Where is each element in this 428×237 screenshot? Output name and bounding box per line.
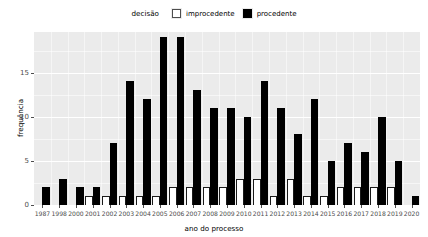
x-tick-label-2004: 2004 [135,210,151,217]
bar-improcedente-2001 [85,196,93,205]
gridline-vertical [51,32,52,205]
x-tick-mark [160,205,161,208]
x-tick-mark [193,205,194,208]
bar-improcedente-2008 [203,187,211,205]
white-square-icon [172,9,181,18]
x-tick-label-2017: 2017 [353,210,369,217]
x-axis-title: ano do processo [0,224,428,233]
bar-procedente-2003 [126,81,134,205]
x-tick-label-2002: 2002 [102,210,118,217]
legend-label-improcedente: improcedente [186,10,235,18]
chart-legend: decisão improcedente procedente [0,8,428,19]
gridline-vertical [403,32,404,205]
x-tick-mark [110,205,111,208]
bar-procedente-2019 [395,161,403,205]
x-tick-label-1987: 1987 [35,210,51,217]
legend-title: decisão [132,9,159,18]
x-tick-mark [261,205,262,208]
y-tick-label: 5 [25,157,29,165]
bar-improcedente-2007 [186,187,194,205]
gridline-major [34,73,420,74]
x-tick-label-2010: 2010 [236,210,252,217]
bar-procedente-2008 [210,108,218,205]
bar-procedente-2013 [294,134,302,205]
bar-improcedente-2019 [387,187,395,205]
gridline-vertical [151,32,152,205]
gridline-vertical [185,32,186,205]
gridline-vertical [370,32,371,205]
gridline-vertical [386,32,387,205]
bar-improcedente-2013 [287,179,295,205]
gridline-vertical [353,32,354,205]
legend-key-procedente [242,8,253,19]
gridline-minor [34,95,420,96]
legend-item-improcedente[interactable]: improcedente [171,8,235,19]
x-tick-label-2019: 2019 [387,210,403,217]
gridline-minor [34,51,420,52]
bar-procedente-2018 [378,117,386,205]
gridline-vertical [135,32,136,205]
bar-improcedente-2005 [152,196,160,205]
bar-procedente-2009 [227,108,235,205]
bar-improcedente-2009 [219,187,227,205]
gridline-vertical [269,32,270,205]
x-tick-label-2011: 2011 [253,210,269,217]
bar-improcedente-2010 [236,179,244,205]
x-tick-mark [344,205,345,208]
x-tick-label-2007: 2007 [186,210,202,217]
bar-procedente-2007 [193,90,201,205]
bar-procedente-2004 [143,99,151,205]
x-tick-label-2008: 2008 [202,210,218,217]
bar-improcedente-2014 [303,196,311,205]
bar-procedente-2016 [344,143,352,205]
y-tick-label: 0 [25,201,29,209]
bar-procedente-2006 [177,37,185,205]
gridline-vertical [101,32,102,205]
black-square-icon [243,9,252,18]
bar-improcedente-2002 [102,196,110,205]
chart-figure: decisão improcedente procedente frequênc… [0,0,428,237]
x-tick-label-2015: 2015 [320,210,336,217]
gridline-vertical [168,32,169,205]
bar-procedente-2002 [110,143,118,205]
gridline-vertical [303,32,304,205]
x-tick-label-2012: 2012 [270,210,286,217]
bar-procedente-2017 [361,152,369,205]
x-tick-mark [395,205,396,208]
bar-procedente-2001 [93,187,101,205]
x-tick-label-2016: 2016 [337,210,353,217]
x-tick-label-2014: 2014 [303,210,319,217]
bar-improcedente-2006 [169,187,177,205]
x-tick-mark [361,205,362,208]
y-tick-label: 15 [20,69,29,77]
x-tick-label-2003: 2003 [119,210,135,217]
bar-procedente-2011 [261,81,269,205]
x-tick-label-2001: 2001 [85,210,101,217]
x-tick-label-2018: 2018 [370,210,386,217]
bar-improcedente-2012 [270,196,278,205]
bar-procedente-2015 [328,161,336,205]
bar-improcedente-2015 [320,196,328,205]
bar-improcedente-2011 [253,179,261,205]
x-tick-mark [143,205,144,208]
x-tick-label-2020: 2020 [404,210,420,217]
x-tick-mark [244,205,245,208]
x-tick-mark [412,205,413,208]
legend-key-improcedente [171,8,182,19]
bar-improcedente-2018 [370,187,378,205]
gridline-vertical [84,32,85,205]
x-tick-mark [277,205,278,208]
bar-improcedente-2016 [337,187,345,205]
x-tick-mark [59,205,60,208]
y-axis: 051015 [0,32,34,205]
gridline-vertical [118,32,119,205]
x-tick-mark [311,205,312,208]
legend-item-procedente[interactable]: procedente [242,8,297,19]
x-tick-label-1998: 1998 [51,210,67,217]
plot-panel [34,32,420,205]
gridline-vertical [336,32,337,205]
x-tick-mark [294,205,295,208]
bar-procedente-2010 [244,117,252,205]
x-tick-mark [42,205,43,208]
x-tick-mark [378,205,379,208]
